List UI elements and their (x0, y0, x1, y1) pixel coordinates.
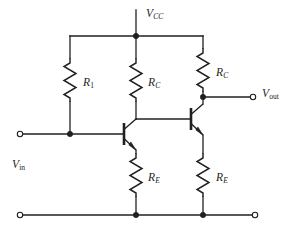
q2-emitter-arrow (196, 127, 203, 135)
resistor-re-right (197, 153, 209, 197)
transistor-q1-npn (70, 119, 136, 153)
label-r1: R1 (83, 77, 94, 89)
label-re-right: RE (216, 172, 228, 184)
resistor-re-left (130, 153, 142, 197)
label-re-right-subscript: E (223, 176, 228, 185)
label-vout-subscript: out (269, 92, 279, 101)
terminal-vin (17, 131, 22, 136)
transistor-q2-npn (191, 97, 203, 153)
resistor-rc-right (197, 48, 209, 92)
q1-collector-lead (125, 119, 137, 129)
label-vcc-subscript: CC (153, 12, 163, 21)
label-re-left: RE (148, 172, 160, 184)
junction-ground-left (133, 212, 138, 217)
label-rc-right-subscript: C (223, 71, 228, 80)
schematic-canvas (0, 0, 291, 230)
resistor-rc-left (130, 58, 142, 102)
label-rc-left: RC (148, 77, 160, 89)
q1-emitter-arrow (129, 142, 136, 150)
terminal-ground-right (252, 212, 257, 217)
label-vin-subscript: in (19, 163, 25, 172)
label-vout: Vout (262, 88, 279, 100)
circuit-diagram-figure: VCC Vout Vin R1 RC RC RE RE (0, 0, 291, 230)
label-rc-right: RC (216, 67, 228, 79)
label-re-left-subscript: E (155, 176, 160, 185)
q2-collector-lead (192, 104, 204, 114)
junction-vcc-node (133, 33, 138, 38)
resistor-r1 (64, 58, 76, 102)
junction-ground-right (200, 212, 205, 217)
terminal-ground-left (17, 212, 22, 217)
terminal-vout (250, 94, 255, 99)
junction-base-bias-node (67, 131, 72, 136)
label-rc-left-subscript: C (155, 81, 160, 90)
junction-vout-node (200, 94, 205, 99)
label-vcc: VCC (146, 8, 163, 20)
label-vin: Vin (12, 159, 25, 171)
label-r1-subscript: 1 (90, 81, 94, 90)
